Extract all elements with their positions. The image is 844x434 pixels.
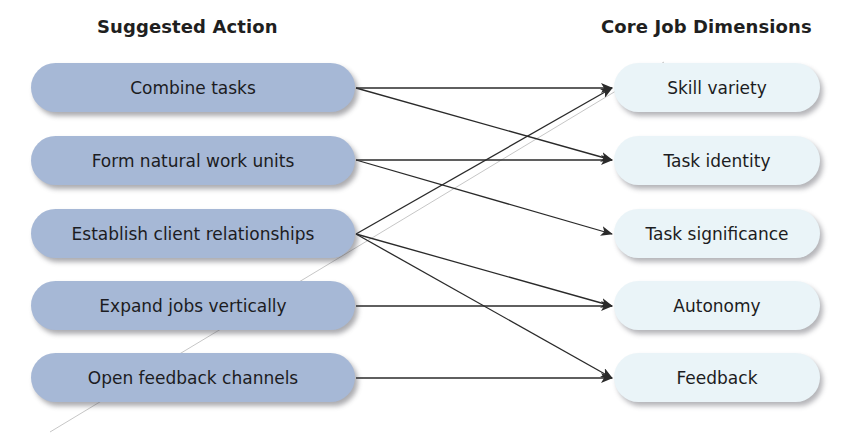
dimension-autonomy: Autonomy — [614, 281, 820, 330]
dimension-feedback: Feedback — [614, 353, 820, 402]
arrow-client-autonomy — [356, 234, 612, 306]
action-establish-client-relationships: Establish client relationships — [31, 209, 355, 258]
dimension-task-significance: Task significance — [614, 209, 820, 258]
arrow-client-feedback — [356, 234, 612, 378]
action-form-natural-work-units: Form natural work units — [31, 136, 355, 185]
action-open-feedback-channels: Open feedback channels — [31, 353, 355, 402]
action-combine-tasks: Combine tasks — [31, 63, 355, 112]
action-expand-jobs-vertically: Expand jobs vertically — [31, 281, 355, 330]
dimension-skill-variety: Skill variety — [614, 63, 820, 112]
suggested-action-heading: Suggested Action — [97, 16, 278, 37]
arrow-natural-significance — [356, 160, 612, 234]
core-job-dimensions-heading: Core Job Dimensions — [601, 16, 812, 37]
arrow-combine-identity — [356, 88, 612, 160]
dimension-task-identity: Task identity — [614, 136, 820, 185]
arrow-client-skill — [356, 88, 612, 234]
